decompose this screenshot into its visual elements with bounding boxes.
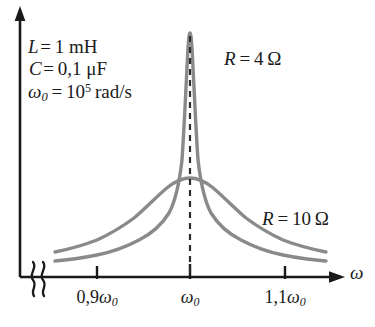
axis-break-squiggle-icon	[32, 262, 45, 296]
parameter-resonant-frequency: ω0 = 105 rad/s	[28, 81, 132, 105]
x-axis-label: ω	[350, 262, 363, 284]
y-axis-arrowhead	[15, 6, 26, 21]
x-tick-label-0: 0,9ω0	[76, 287, 117, 310]
curve-label-r4: R = 4 Ω	[224, 48, 281, 70]
y-axis	[15, 6, 26, 277]
resonance-curve-figure: L = 1 mH C = 0,1 μF ω0 = 105 rad/s R = 4…	[0, 0, 375, 327]
parameter-capacitance: C = 0,1 μF	[28, 58, 132, 80]
x-tick-label-1: ω0	[181, 287, 200, 310]
x-axis-arrowhead	[329, 271, 345, 283]
x-axis	[20, 271, 345, 283]
parameter-inductance: L = 1 mH	[28, 36, 132, 58]
curve-label-r10: R = 10 Ω	[262, 208, 329, 230]
circuit-parameters-annotation: L = 1 mH C = 0,1 μF ω0 = 105 rad/s	[28, 36, 132, 105]
x-tick-label-2: 1,1ω0	[264, 287, 305, 310]
